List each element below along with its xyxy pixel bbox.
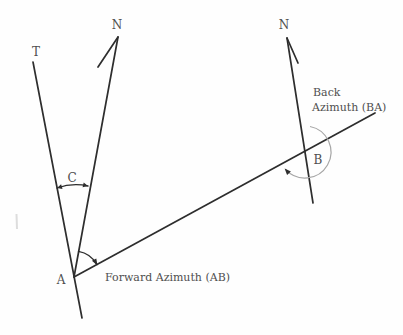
line-ab [74, 113, 375, 277]
north-line-at-a [74, 37, 118, 277]
label-point-a: A [56, 273, 66, 287]
label-back-azimuth-line1: Back [313, 86, 341, 99]
angle-c-arrow-right-icon [83, 183, 88, 188]
label-point-b: B [314, 153, 323, 167]
scan-artifact [17, 214, 18, 229]
label-north-right: N [279, 18, 290, 32]
label-t: T [32, 45, 40, 59]
label-north-left: N [112, 18, 123, 32]
azimuth-diagram: T N N C A B Forward Azimuth (AB) Back Az… [0, 0, 403, 335]
label-forward-azimuth: Forward Azimuth (AB) [105, 271, 230, 284]
label-angle-c: C [67, 171, 76, 185]
label-back-azimuth-line2: Azimuth (BA) [311, 101, 386, 114]
azimuth-diagram-svg: T N N C A B Forward Azimuth (AB) Back Az… [0, 0, 403, 335]
